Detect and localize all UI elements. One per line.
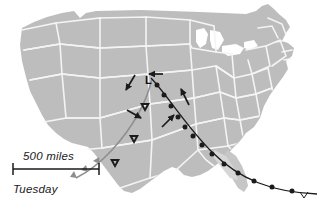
scale-bar-ruler [13,163,99,175]
day-label: Tuesday [13,183,59,195]
weather-map-figure: L 500 miles Tuesday [0,0,317,205]
dry-line-barbs [70,157,100,178]
landmass [20,4,294,193]
weather-map-canvas: L 500 miles Tuesday [0,0,317,205]
scale-bar-label: 500 miles [23,150,74,162]
us-landmass-shape [20,4,294,193]
low-pressure-label: L [145,74,152,86]
